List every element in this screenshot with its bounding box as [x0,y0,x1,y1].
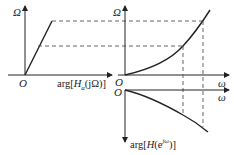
right-upper-x-axis-label: ω [218,78,226,89]
right-lower-origin-label: O [114,87,122,98]
right-lower-x-axis-label: ω [218,92,226,103]
analog-phase-line [25,21,52,75]
right-lower-y-axis-label: arg[H(ejω)] [130,138,176,150]
digital-phase-curve [125,90,208,132]
left-x-axis-label: arg[Ha(jΩ)] [57,79,106,92]
right-upper-y-axis-label: Ω [113,7,121,18]
left-y-axis-label: Ω [13,7,21,18]
frequency-warping-curve [125,10,210,75]
left-origin-label: O [19,78,27,89]
